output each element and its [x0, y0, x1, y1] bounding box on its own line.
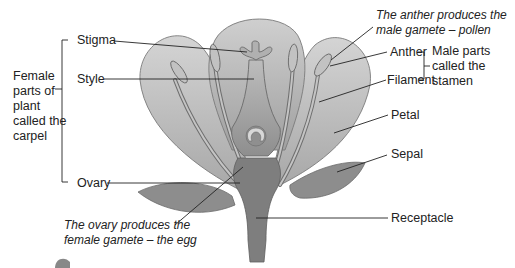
label-style: Style: [77, 72, 105, 86]
anther-note: The anther produces the male gamete – po…: [376, 8, 507, 38]
label-sepal: Sepal: [391, 147, 423, 161]
label-stigma: Stigma: [77, 33, 116, 47]
label-ovary: Ovary: [77, 176, 110, 190]
receptacle: [234, 158, 281, 262]
label-anther: Anther: [390, 45, 427, 59]
label-filament: Filament: [387, 73, 435, 87]
ovary-note: The ovary produces the female gamete – t…: [64, 218, 197, 248]
label-petal: Petal: [391, 108, 420, 122]
male-group-label: Male parts called the stamen: [432, 44, 490, 89]
sepal-left: [138, 183, 235, 213]
label-receptacle: Receptacle: [391, 211, 454, 225]
partial-circle-icon: [55, 259, 70, 268]
female-group-label: Female parts of plant called the carpel: [13, 69, 67, 144]
